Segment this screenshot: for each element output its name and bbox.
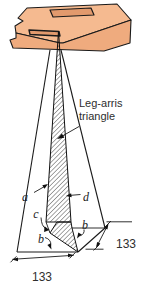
label-a-group: a	[22, 184, 48, 204]
arris-triangle-hatch-upper	[46, 31, 71, 222]
callout-leg-arris: Leg-arris triangle	[57, 97, 123, 139]
label-c: c	[33, 207, 39, 221]
callout-line2: triangle	[79, 110, 115, 122]
arris-triangle	[46, 31, 78, 252]
mortise-slot-front	[29, 30, 60, 36]
diagram-canvas: Leg-arris triangle a d c b b 133	[0, 0, 147, 297]
arrow-d-shaft	[71, 195, 81, 196]
label-b-left: b	[38, 232, 44, 246]
label-b-left-group: b	[38, 232, 52, 250]
leg-foot-right-edge	[78, 228, 105, 252]
label-d: d	[83, 190, 90, 204]
leg-arris-diagram: Leg-arris triangle a d c b b 133	[0, 0, 147, 297]
dimension-bottom: 133	[11, 252, 76, 284]
callout-line1: Leg-arris	[79, 97, 123, 109]
label-b-right: b	[82, 218, 88, 232]
arris-triangle-hatch-lower	[50, 222, 78, 252]
arrow-b-left-head	[47, 243, 51, 249]
foot-small-triangle-left-edge	[46, 222, 50, 233]
leg-left-edge	[17, 50, 50, 252]
dim-right-value: 133	[116, 237, 136, 251]
dim-bottom-value: 133	[32, 270, 52, 284]
mortise-slot-back	[50, 8, 94, 17]
arrow-a-head	[42, 184, 48, 189]
dim-bottom-shaft	[13, 255, 74, 259]
dimension-right: 133	[86, 221, 137, 251]
label-a: a	[22, 190, 28, 204]
table-top	[10, 4, 131, 51]
arrow-a-shaft	[34, 187, 45, 193]
